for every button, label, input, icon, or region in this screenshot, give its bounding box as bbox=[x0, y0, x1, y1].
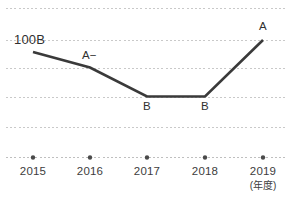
x-axis-label-2016: 2016 bbox=[62, 164, 118, 178]
point-label-2017: B bbox=[143, 100, 151, 113]
x-axis-label-2017: 2017 bbox=[119, 164, 175, 178]
point-label-2019: A bbox=[259, 20, 267, 33]
point-label-2015: 100B bbox=[14, 33, 45, 46]
x-tick-dot-2016 bbox=[88, 155, 92, 159]
gridlines-group bbox=[6, 9, 286, 158]
point-label-2018: B bbox=[201, 100, 209, 113]
x-axis-label-2015: 2015 bbox=[5, 164, 61, 178]
x-tick-dot-2015 bbox=[31, 155, 35, 159]
x-axis-label-2019: 2019 bbox=[235, 164, 291, 178]
x-tick-dot-2017 bbox=[145, 155, 149, 159]
rating-series-line bbox=[33, 40, 263, 97]
x-axis-label-2018: 2018 bbox=[177, 164, 233, 178]
x-tick-dot-2019 bbox=[261, 155, 265, 159]
x-tick-dot-2018 bbox=[203, 155, 207, 159]
line-chart: 100B A− B B A 2015 2016 2017 2018 2019 (… bbox=[0, 0, 292, 199]
x-axis-unit-note: (年度) bbox=[235, 179, 291, 192]
series-group bbox=[33, 40, 263, 97]
point-label-2016: A− bbox=[82, 49, 97, 62]
